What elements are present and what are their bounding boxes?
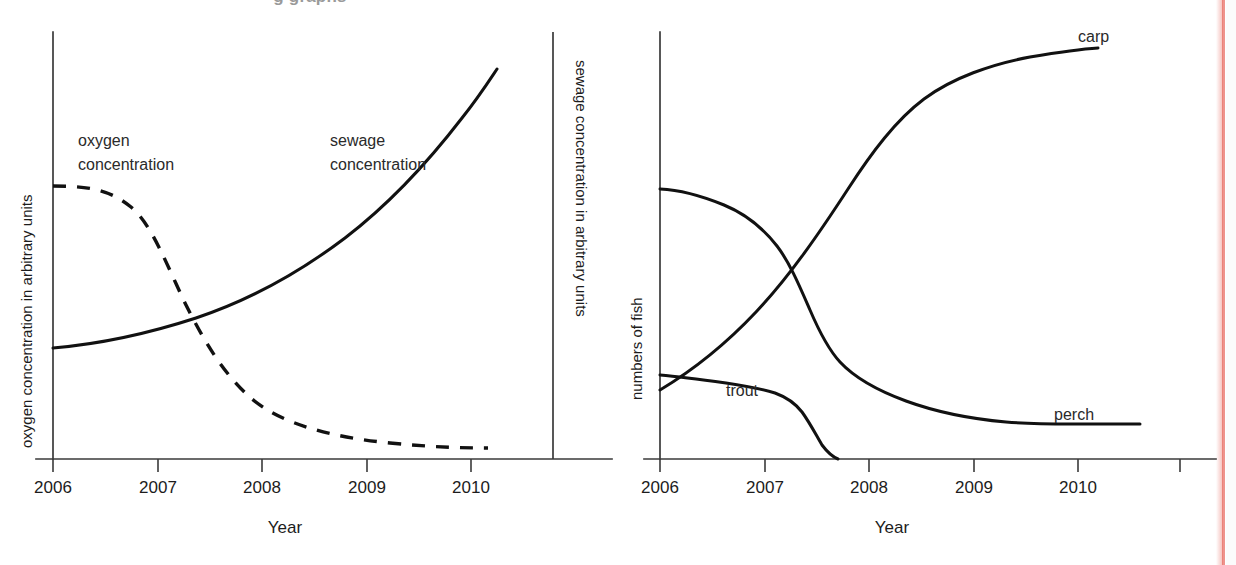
scan-edge-rule [1222,0,1225,565]
graph-figure-page: g graphs oxygen concentration sewage co [0,0,1236,565]
right-annotation-perch: perch [1054,406,1094,423]
right-chart-svg: carp trout perch 2006 2007 2008 2009 201… [620,0,1220,565]
right-chart-panel: carp trout perch 2006 2007 2008 2009 201… [620,0,1220,565]
right-x-axis-title: Year [875,518,910,537]
left-xtick-label-2007: 2007 [139,478,177,497]
right-annotation-trout: trout [726,382,759,399]
right-y-axis-title: numbers of fish [628,297,645,400]
right-xtick-label-2008: 2008 [850,478,888,497]
left-curve-sewage-concentration [53,69,497,348]
left-annotation-oxygen-line2: concentration [78,156,174,173]
right-xtick-label-2009: 2009 [955,478,993,497]
left-xtick-label-2006: 2006 [34,478,72,497]
left-curve-oxygen-concentration [53,186,488,448]
left-chart-svg: oxygen concentration sewage concentratio… [0,0,620,565]
left-annotation-sewage-line1: sewage [330,132,385,149]
left-annotation-sewage-line2: concentration [330,156,426,173]
right-xtick-label-2010: 2010 [1059,478,1097,497]
right-annotation-carp: carp [1078,28,1109,45]
right-xtick-label-2007: 2007 [746,478,784,497]
left-secondary-axis-title: sewage concentration in arbitrary units [573,60,590,317]
left-chart-panel: oxygen concentration sewage concentratio… [0,0,620,565]
left-annotation-oxygen-line1: oxygen [78,132,130,149]
right-xtick-label-2006: 2006 [641,478,679,497]
left-xtick-label-2008: 2008 [243,478,281,497]
scan-gutter [1226,0,1236,565]
right-curve-carp [660,48,1098,390]
left-xtick-label-2009: 2009 [348,478,386,497]
left-x-axis-title: Year [268,518,303,537]
left-xtick-label-2010: 2010 [452,478,490,497]
left-y-axis-title: oxygen concentration in arbitrary units [18,195,35,448]
